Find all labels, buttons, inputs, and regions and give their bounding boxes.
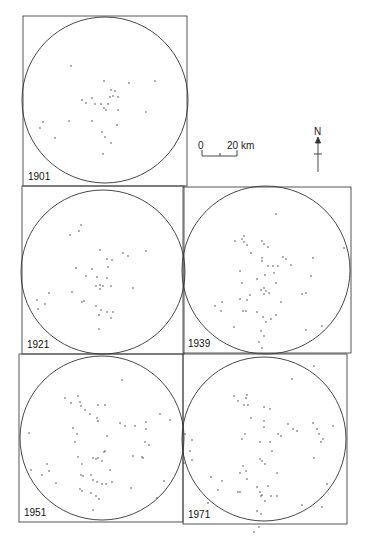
settlement-dot [90,492,91,493]
settlement-dot [132,287,133,288]
settlement-dot [246,244,247,245]
study-area-circle [182,357,346,521]
settlement-dot [109,469,110,470]
settlement-dot [76,433,77,434]
settlement-dot [112,95,113,96]
settlement-dot [94,103,95,104]
settlement-dot [48,470,49,471]
settlement-dot [101,483,102,484]
settlement-dot [233,326,234,327]
settlement-dot [109,96,110,97]
settlement-dot [250,252,251,253]
settlement-dot [91,120,92,121]
settlement-dot [102,285,103,286]
settlement-dot [241,438,242,439]
settlement-dot [156,497,157,498]
settlement-dot [92,479,93,480]
settlement-dot [244,433,245,434]
settlement-dot [80,224,81,225]
settlement-dot [100,309,101,310]
settlement-dot [46,463,47,464]
settlement-dot [239,270,240,271]
settlement-dot [144,441,145,442]
settlement-dot [263,335,264,336]
settlement-dot [261,257,262,258]
settlement-dot [84,409,85,410]
settlement-dot [89,413,90,414]
panel-frame [19,354,183,522]
settlement-dot [296,430,297,431]
settlement-dot [39,127,40,128]
north-arrow-label: N [314,126,321,137]
settlement-map-figure: 19011921193919511971 0 20 km N [0,0,366,537]
settlement-dot [101,460,102,461]
settlement-dot [322,438,323,439]
settlement-dot [90,474,91,475]
settlement-dot [217,489,218,490]
settlement-dot [275,213,276,214]
settlement-dot [246,299,247,300]
settlement-dot [96,417,97,418]
settlement-dot [98,328,99,329]
study-area-circle [21,190,185,354]
settlement-dot [280,435,281,436]
settlement-dot [111,259,112,260]
settlement-dot [245,397,246,398]
settlement-dot [263,420,264,421]
settlement-dot [169,419,170,420]
settlement-dot [256,486,257,487]
settlement-dot [98,498,99,499]
settlement-dot [37,308,38,309]
settlement-dot [260,289,261,290]
settlement-dots [214,213,344,348]
study-area-circle [22,17,188,183]
settlement-dot [234,240,235,241]
settlement-dot [107,266,108,267]
settlement-dot [163,480,164,481]
settlement-dot [243,404,244,405]
settlement-dot [99,249,100,250]
settlement-dot [95,458,96,459]
settlement-dot [69,234,70,235]
settlement-dot [127,255,128,256]
settlement-dot [95,495,96,496]
settlement-dot [100,103,101,104]
settlement-dot [55,482,56,483]
settlement-dot [122,252,123,253]
panel-frame [183,187,351,353]
north-arrow-icon [314,137,322,172]
settlement-dot [95,305,96,306]
settlement-dot [106,277,107,278]
settlement-dot [81,490,82,491]
settlement-dot [265,321,266,322]
settlement-dot [104,136,105,137]
settlement-dot [246,478,247,479]
settlement-dot [239,491,240,492]
settlement-dot [141,456,142,457]
settlement-dot [261,347,262,348]
settlement-dot [243,241,244,242]
settlement-dot [44,303,45,304]
settlement-dot [81,99,82,100]
settlement-dot [96,276,97,277]
settlement-dot [105,109,106,110]
settlement-dot [154,80,155,81]
settlement-dot [189,450,190,451]
panel-frame [22,186,184,354]
settlement-dot [92,509,93,510]
settlement-dot [313,365,314,366]
settlement-dot [261,240,262,241]
settlement-dot [30,469,31,470]
settlement-dot [130,487,131,488]
settlement-dot [267,265,268,266]
settlement-dot [42,121,43,122]
settlement-dot [117,96,118,97]
settlement-dot [191,439,192,440]
settlement-dot [91,268,92,269]
settlement-dots [28,379,170,510]
settlement-dot [106,258,107,259]
settlement-dot [77,395,78,396]
settlement-dot [104,450,105,451]
settlement-dot [97,457,98,458]
settlement-dot [343,247,344,248]
